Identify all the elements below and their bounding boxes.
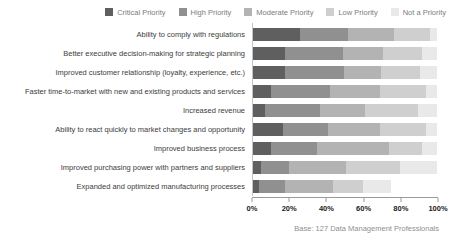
bar-segment-not-a-priority[interactable] — [400, 161, 437, 174]
category-label: Expanded and optimized manufacturing pro… — [0, 182, 252, 191]
bar-segment-critical-priority[interactable] — [252, 66, 285, 79]
bar-segment-moderate-priority[interactable] — [285, 180, 333, 193]
legend-label: Low Priority — [338, 8, 377, 17]
bar-segment-low-priority[interactable] — [346, 161, 400, 174]
axis-tick-label: 100% — [428, 204, 447, 213]
bar-segment-high-priority[interactable] — [261, 161, 289, 174]
legend-swatch-icon — [244, 8, 252, 16]
bar-segment-critical-priority[interactable] — [252, 28, 300, 41]
axis-tick — [252, 198, 253, 202]
bar-row: Better executive decision-making for str… — [0, 44, 456, 63]
bar-segment-moderate-priority[interactable] — [348, 28, 394, 41]
stacked-bar[interactable] — [252, 28, 437, 41]
bar-segment-low-priority[interactable] — [394, 28, 429, 41]
axis-tick — [400, 198, 401, 202]
bar-segment-moderate-priority[interactable] — [320, 104, 364, 117]
bar-segment-moderate-priority[interactable] — [289, 161, 346, 174]
bar-segment-critical-priority[interactable] — [252, 161, 261, 174]
legend-label: Moderate Priority — [256, 8, 313, 17]
bar-row: Faster time-to-market with new and exist… — [0, 82, 456, 101]
legend-swatch-icon — [179, 8, 187, 16]
bar-segment-not-a-priority[interactable] — [426, 85, 437, 98]
bar-segment-critical-priority[interactable] — [252, 85, 271, 98]
stacked-bar[interactable] — [252, 47, 437, 60]
category-label: Improved business process — [0, 144, 252, 153]
bar-segment-not-a-priority[interactable] — [418, 104, 437, 117]
bar-segment-moderate-priority[interactable] — [343, 47, 384, 60]
stacked-bar[interactable] — [252, 123, 437, 136]
bar-segment-low-priority[interactable] — [365, 104, 419, 117]
legend-item: High Priority — [179, 8, 232, 17]
bar-segment-low-priority[interactable] — [380, 123, 426, 136]
axis-tick-label: 40% — [319, 204, 334, 213]
bar-segment-low-priority[interactable] — [389, 142, 422, 155]
bar-segment-critical-priority[interactable] — [252, 180, 259, 193]
bar-segment-low-priority[interactable] — [380, 85, 426, 98]
bar-segment-critical-priority[interactable] — [252, 104, 265, 117]
category-label: Improved purchasing power with partners … — [0, 163, 252, 172]
bar-segment-high-priority[interactable] — [265, 104, 321, 117]
legend-item: Moderate Priority — [244, 8, 313, 17]
bar-segment-low-priority[interactable] — [381, 66, 420, 79]
axis-tick-label: 20% — [282, 204, 297, 213]
chart-legend: Critical PriorityHigh PriorityModerate P… — [0, 6, 456, 18]
bar-row: Improved business process — [0, 139, 456, 158]
axis-tick — [326, 198, 327, 202]
stacked-bar[interactable] — [252, 161, 437, 174]
stacked-bar[interactable] — [252, 66, 437, 79]
bar-segment-high-priority[interactable] — [285, 66, 344, 79]
base-note: Base: 127 Data Management Professionals — [294, 224, 439, 233]
legend-item: Not a Priority — [391, 8, 446, 17]
axis-tick — [363, 198, 364, 202]
x-axis: 0%20%40%60%80%100% — [252, 197, 438, 223]
legend-label: High Priority — [191, 8, 232, 17]
plot-area: Ability to comply with regulationsBetter… — [0, 25, 456, 196]
bar-segment-moderate-priority[interactable] — [328, 123, 380, 136]
bar-segment-high-priority[interactable] — [271, 142, 317, 155]
legend-item: Low Priority — [326, 8, 377, 17]
legend-item: Critical Priority — [105, 8, 165, 17]
category-label: Ability to comply with regulations — [0, 30, 252, 39]
bar-segment-moderate-priority[interactable] — [330, 85, 380, 98]
axis-tick — [438, 198, 439, 202]
bar-segment-critical-priority[interactable] — [252, 142, 271, 155]
bar-segment-high-priority[interactable] — [271, 85, 330, 98]
category-label: Improved customer relationship (loyalty,… — [0, 68, 252, 77]
stacked-bar[interactable] — [252, 180, 437, 193]
bar-segment-high-priority[interactable] — [300, 28, 348, 41]
bar-segment-not-a-priority[interactable] — [420, 66, 437, 79]
axis-tick-label: 0% — [247, 204, 258, 213]
bar-segment-critical-priority[interactable] — [252, 47, 285, 60]
bar-segment-moderate-priority[interactable] — [317, 142, 389, 155]
bar-segment-not-a-priority[interactable] — [422, 47, 437, 60]
bar-segment-high-priority[interactable] — [285, 47, 342, 60]
priority-stacked-bar-chart: Critical PriorityHigh PriorityModerate P… — [0, 0, 456, 240]
bar-segment-high-priority[interactable] — [259, 180, 285, 193]
bar-row: Expanded and optimized manufacturing pro… — [0, 177, 456, 196]
stacked-bar[interactable] — [252, 85, 437, 98]
category-label: Faster time-to-market with new and exist… — [0, 87, 252, 96]
legend-label: Not a Priority — [403, 8, 446, 17]
bar-row: Improved purchasing power with partners … — [0, 158, 456, 177]
bar-segment-moderate-priority[interactable] — [344, 66, 381, 79]
stacked-bar[interactable] — [252, 142, 437, 155]
stacked-bar[interactable] — [252, 104, 437, 117]
bar-segment-not-a-priority[interactable] — [430, 28, 437, 41]
bar-segment-not-a-priority[interactable] — [422, 142, 437, 155]
bar-segment-not-a-priority[interactable] — [426, 123, 437, 136]
axis-tick — [289, 198, 290, 202]
bar-row: Increased revenue — [0, 101, 456, 120]
bar-segment-high-priority[interactable] — [283, 123, 327, 136]
bar-row: Improved customer relationship (loyalty,… — [0, 63, 456, 82]
bar-segment-low-priority[interactable] — [333, 180, 363, 193]
category-label: Increased revenue — [0, 106, 252, 115]
bar-segment-not-a-priority[interactable] — [363, 180, 391, 193]
bar-segment-low-priority[interactable] — [383, 47, 422, 60]
legend-swatch-icon — [105, 8, 113, 16]
legend-swatch-icon — [391, 8, 399, 16]
bar-segment-critical-priority[interactable] — [252, 123, 283, 136]
axis-tick-label: 60% — [356, 204, 371, 213]
category-label: Ability to react quickly to market chang… — [0, 125, 252, 134]
bar-row: Ability to comply with regulations — [0, 25, 456, 44]
bar-row: Ability to react quickly to market chang… — [0, 120, 456, 139]
